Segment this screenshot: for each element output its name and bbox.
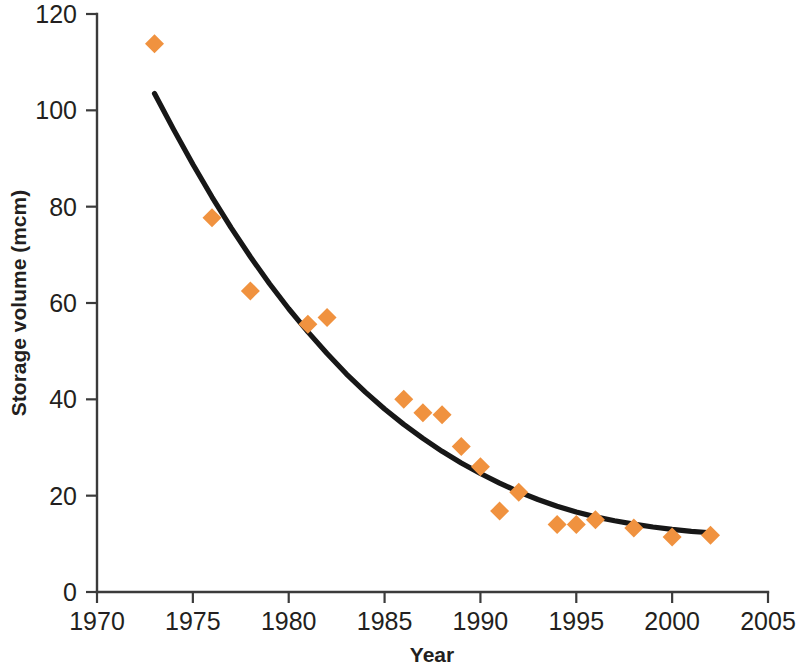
data-point-marker xyxy=(471,457,490,476)
y-axis-tick-labels: 020406080100120 xyxy=(35,0,77,606)
data-point-marker xyxy=(298,315,317,334)
y-axis-tick-label: 60 xyxy=(49,289,77,317)
x-axis-ticks xyxy=(97,592,768,603)
x-axis-tick-label: 1980 xyxy=(261,607,317,635)
data-point-marker xyxy=(241,281,260,300)
data-point-marker xyxy=(413,403,432,422)
data-point-markers xyxy=(145,34,720,546)
data-point-marker xyxy=(318,308,337,327)
data-point-marker xyxy=(567,515,586,534)
y-axis-tick-label: 20 xyxy=(49,482,77,510)
data-point-marker xyxy=(490,502,509,521)
x-axis-tick-label: 1975 xyxy=(165,607,221,635)
data-point-marker xyxy=(452,437,471,456)
data-point-marker xyxy=(145,34,164,53)
x-axis-tick-label: 1990 xyxy=(453,607,509,635)
x-axis-group: 19701975198019851990199520002005 Year xyxy=(69,592,796,666)
storage-volume-scatter-chart: 020406080100120 Storage volume (mcm) 197… xyxy=(0,0,798,669)
y-axis-tick-label: 100 xyxy=(35,96,77,124)
x-axis-tick-label: 2000 xyxy=(644,607,700,635)
x-axis-tick-labels: 19701975198019851990199520002005 xyxy=(69,607,796,635)
x-axis-tick-label: 1985 xyxy=(357,607,413,635)
y-axis-ticks xyxy=(86,14,97,592)
x-axis-title: Year xyxy=(410,643,454,666)
trend-line xyxy=(155,93,711,532)
y-axis-title: Storage volume (mcm) xyxy=(7,190,30,416)
x-axis-tick-label: 1970 xyxy=(69,607,125,635)
x-axis-tick-label: 1995 xyxy=(548,607,604,635)
chart-container: 020406080100120 Storage volume (mcm) 197… xyxy=(0,0,798,669)
y-axis-group: 020406080100120 Storage volume (mcm) xyxy=(7,0,97,606)
y-axis-tick-label: 80 xyxy=(49,193,77,221)
y-axis-tick-label: 0 xyxy=(63,578,77,606)
data-point-marker xyxy=(509,483,528,502)
y-axis-tick-label: 40 xyxy=(49,385,77,413)
data-point-marker xyxy=(548,515,567,534)
x-axis-tick-label: 2005 xyxy=(740,607,796,635)
y-axis-tick-label: 120 xyxy=(35,0,77,28)
data-point-marker xyxy=(701,526,720,545)
data-point-marker xyxy=(394,390,413,409)
data-point-marker xyxy=(433,405,452,424)
